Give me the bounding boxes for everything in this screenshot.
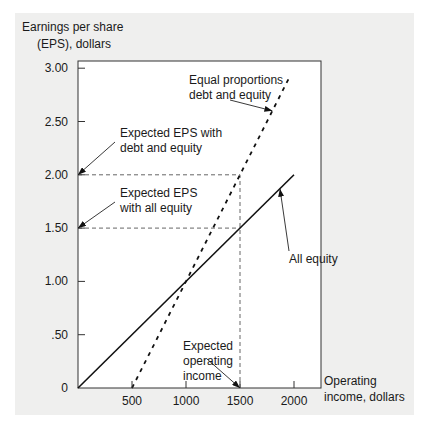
- y-tick-label: 2.00: [45, 168, 69, 182]
- eps-chart: 0.501.001.502.002.503.00500100015002000 …: [0, 0, 434, 433]
- annotation-expected-operating-income-text: Expected: [183, 339, 233, 353]
- annotation-equal-proportions-text: Equal proportions: [189, 73, 283, 87]
- y-axis-label-line-1: Earnings per share: [22, 20, 124, 34]
- annotation-all-equity-text: All equity: [289, 252, 338, 266]
- x-tick-label: 1000: [173, 394, 200, 408]
- annotation-expected-operating-income-text: income: [183, 369, 222, 383]
- annotation-expected-eps-all-equity-text: Expected EPS: [120, 186, 197, 200]
- y-tick-label: .50: [51, 328, 68, 342]
- annotation-expected-eps-debt-equity-text: Expected EPS with: [120, 126, 222, 140]
- y-tick-label: 1.00: [45, 274, 69, 288]
- x-axis-label-line-2: income, dollars: [324, 390, 405, 404]
- y-axis-label-line-2: (EPS), dollars: [37, 37, 111, 51]
- x-tick-label: 500: [122, 394, 142, 408]
- y-tick-label: 3.00: [45, 61, 69, 75]
- y-tick-label: 2.50: [45, 115, 69, 129]
- y-tick-label: 0: [61, 381, 68, 395]
- x-axis-label-line-1: Operating: [324, 374, 377, 388]
- x-tick-label: 1500: [227, 394, 254, 408]
- y-tick-label: 1.50: [45, 221, 69, 235]
- annotation-expected-eps-all-equity-text: with all equity: [119, 201, 192, 215]
- annotation-expected-operating-income-text: operating: [183, 354, 233, 368]
- annotation-expected-eps-debt-equity-text: debt and equity: [120, 141, 202, 155]
- x-tick-label: 2000: [281, 394, 308, 408]
